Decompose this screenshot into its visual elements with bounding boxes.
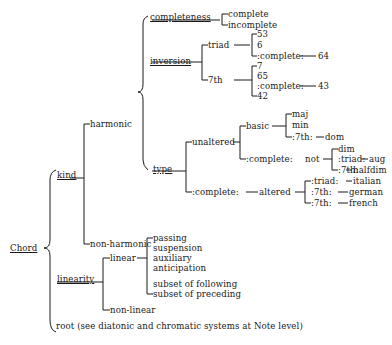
altered-7th-german: :7th:	[311, 187, 332, 197]
seventh-complete: :complete:	[257, 81, 304, 91]
completeness-label: completeness	[150, 12, 211, 22]
type-label: type	[153, 164, 172, 174]
complete-altered-label: :complete:	[192, 187, 239, 197]
non-linear-label: non-linear	[110, 305, 156, 315]
seventh-label: 7th	[208, 75, 223, 85]
not-halfdim: halfdim	[353, 165, 387, 175]
triad-64: 64	[318, 51, 329, 61]
inversion-label: inversion	[150, 56, 191, 66]
altered-italian: italian	[353, 176, 381, 186]
linear-suspension: suspension	[153, 243, 202, 253]
harmonic-label: harmonic	[90, 119, 132, 129]
chord-taxonomy-diagram: Chord kind harmonic non-harmonic complet…	[0, 0, 392, 345]
root-label-chord: Chord	[10, 243, 37, 253]
basic-label: basic	[246, 121, 269, 131]
triad-label: triad	[208, 40, 229, 50]
kind-label: kind	[57, 170, 76, 180]
non-harmonic-label: non-harmonic	[90, 239, 152, 249]
linear-auxiliary: auxiliary	[153, 253, 192, 263]
linear-label: linear	[110, 253, 136, 263]
linear-anticipation: anticipation	[153, 263, 206, 273]
altered-triad: :triad:	[311, 176, 338, 186]
triad-complete: :complete:	[257, 51, 304, 61]
not-dim: dim	[338, 144, 355, 154]
not-triad: :triad:	[338, 154, 365, 164]
triad-53: 53	[257, 29, 268, 39]
complete-label: complete	[228, 9, 269, 19]
basic-maj: maj	[292, 109, 308, 119]
linear-subset-following: subset of following	[153, 279, 237, 289]
seventh-7: 7	[257, 61, 263, 71]
altered-french: french	[349, 198, 378, 208]
not-aug: aug	[369, 154, 385, 164]
altered-german: german	[349, 187, 383, 197]
unaltered-label: unaltered	[192, 137, 235, 147]
basic-min: min	[292, 120, 309, 130]
root-note-label: root (see diatonic and chromatic systems…	[56, 321, 303, 331]
linear-passing: passing	[153, 233, 187, 243]
seventh-65: 65	[257, 71, 268, 81]
seventh-43: 43	[318, 81, 329, 91]
complete-not-label: :complete:	[246, 154, 293, 164]
altered-label: altered	[259, 187, 291, 197]
basic-dom: dom	[325, 132, 344, 142]
basic-7th: :7th:	[292, 132, 313, 142]
altered-7th-french: :7th:	[311, 198, 332, 208]
incomplete-label: incomplete	[228, 20, 277, 30]
linear-subset-preceding: subset of preceding	[153, 289, 241, 299]
seventh-42: 42	[257, 91, 268, 101]
not-label: not	[305, 154, 319, 164]
linearity-label: linearity	[57, 274, 94, 284]
triad-6: 6	[257, 40, 263, 50]
